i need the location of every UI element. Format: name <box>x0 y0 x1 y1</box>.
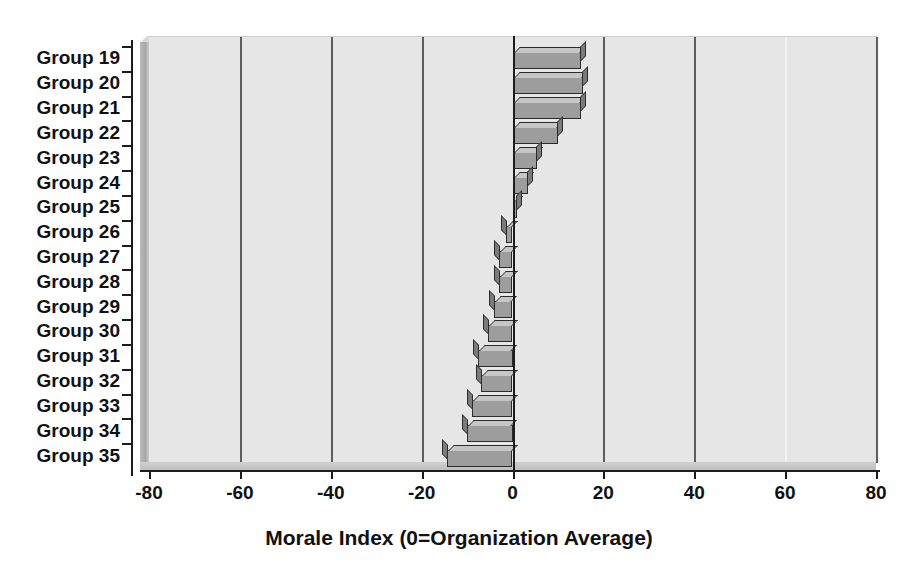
y-tick-label-group-19: Group 19 <box>0 47 120 69</box>
bar-group-33 <box>472 400 513 417</box>
bar-top-face <box>468 420 517 426</box>
gridline-80 <box>876 37 878 463</box>
bar-group-30 <box>488 325 513 342</box>
y-tick-label-group-23: Group 23 <box>0 147 120 169</box>
x-tick--40 <box>331 470 333 479</box>
y-tick-16 <box>122 443 132 445</box>
y-tick-label-group-34: Group 34 <box>0 420 120 442</box>
zero-reference-line <box>513 36 515 470</box>
x-tick-80 <box>876 470 878 479</box>
y-tick-label-group-28: Group 28 <box>0 271 120 293</box>
y-tick-7 <box>122 220 132 222</box>
x-tick-label-80: 80 <box>841 482 911 504</box>
x-tick-60 <box>785 470 787 479</box>
y-tick-9 <box>122 269 132 271</box>
x-tick-label--20: -20 <box>387 482 457 504</box>
y-tick-label-group-33: Group 33 <box>0 395 120 417</box>
y-tick-15 <box>122 418 132 420</box>
y-tick-11 <box>122 319 132 321</box>
y-tick-10 <box>122 294 132 296</box>
plot-left-wall <box>140 42 149 470</box>
chart-figure: Group 19Group 20Group 21Group 22Group 23… <box>0 0 918 572</box>
bar-group-27 <box>499 251 513 268</box>
y-tick-2 <box>122 96 132 98</box>
y-tick-1 <box>122 71 132 73</box>
bar-group-20 <box>513 77 583 94</box>
y-tick-13 <box>122 369 132 371</box>
y-tick-label-group-25: Group 25 <box>0 196 120 218</box>
x-tick--80 <box>149 470 151 479</box>
bar-group-21 <box>513 102 581 119</box>
gridline-40 <box>694 37 696 463</box>
y-tick-label-group-26: Group 26 <box>0 221 120 243</box>
y-tick-3 <box>122 120 132 122</box>
y-tick-label-group-29: Group 29 <box>0 296 120 318</box>
gridline-20 <box>603 37 605 463</box>
bar-top-face <box>473 395 518 401</box>
y-tick-label-group-32: Group 32 <box>0 370 120 392</box>
plot-area: Group 19Group 20Group 21Group 22Group 23… <box>0 0 918 572</box>
x-tick--60 <box>240 470 242 479</box>
bar-top-face <box>448 445 518 451</box>
y-tick-4 <box>122 145 132 147</box>
x-tick-label--60: -60 <box>205 482 275 504</box>
y-tick-label-group-24: Group 24 <box>0 172 120 194</box>
y-tick-label-group-21: Group 21 <box>0 97 120 119</box>
bar-group-19 <box>513 52 581 69</box>
x-tick-label--40: -40 <box>296 482 366 504</box>
x-tick--20 <box>422 470 424 479</box>
x-tick-label-40: 40 <box>659 482 729 504</box>
bar-group-23 <box>513 152 538 169</box>
bar-group-29 <box>494 301 512 318</box>
y-tick-label-group-22: Group 22 <box>0 122 120 144</box>
bar-top-face <box>514 47 586 53</box>
gridline-60 <box>785 37 787 463</box>
x-tick-0 <box>513 470 515 479</box>
bar-group-34 <box>467 425 512 442</box>
x-tick-40 <box>694 470 696 479</box>
bar-group-28 <box>499 276 513 293</box>
x-tick-label--80: -80 <box>114 482 184 504</box>
y-tick-14 <box>122 394 132 396</box>
y-tick-label-group-30: Group 30 <box>0 320 120 342</box>
y-tick-label-group-31: Group 31 <box>0 345 120 367</box>
y-axis-line <box>131 40 133 476</box>
gridline--40 <box>331 37 333 463</box>
gridline--60 <box>240 37 242 463</box>
y-tick-12 <box>122 344 132 346</box>
bar-top-face <box>514 122 563 128</box>
bar-group-26 <box>506 226 513 243</box>
bar-group-32 <box>481 375 513 392</box>
y-tick-label-group-20: Group 20 <box>0 72 120 94</box>
gridline--20 <box>422 37 424 463</box>
bar-group-31 <box>478 350 512 367</box>
bar-top-face <box>514 97 586 103</box>
bar-group-22 <box>513 127 558 144</box>
y-tick-6 <box>122 195 132 197</box>
y-tick-label-group-35: Group 35 <box>0 445 120 467</box>
x-tick-label-20: 20 <box>568 482 638 504</box>
y-tick-5 <box>122 170 132 172</box>
bar-top-face <box>514 72 588 78</box>
y-tick-label-group-27: Group 27 <box>0 246 120 268</box>
x-axis-title: Morale Index (0=Organization Average) <box>0 526 918 550</box>
x-tick-20 <box>603 470 605 479</box>
y-tick-0 <box>122 46 132 48</box>
x-tick-label-60: 60 <box>750 482 820 504</box>
y-tick-8 <box>122 245 132 247</box>
x-axis-line <box>140 470 880 472</box>
x-tick-label-0: 0 <box>478 482 548 504</box>
bar-group-35 <box>447 450 513 467</box>
